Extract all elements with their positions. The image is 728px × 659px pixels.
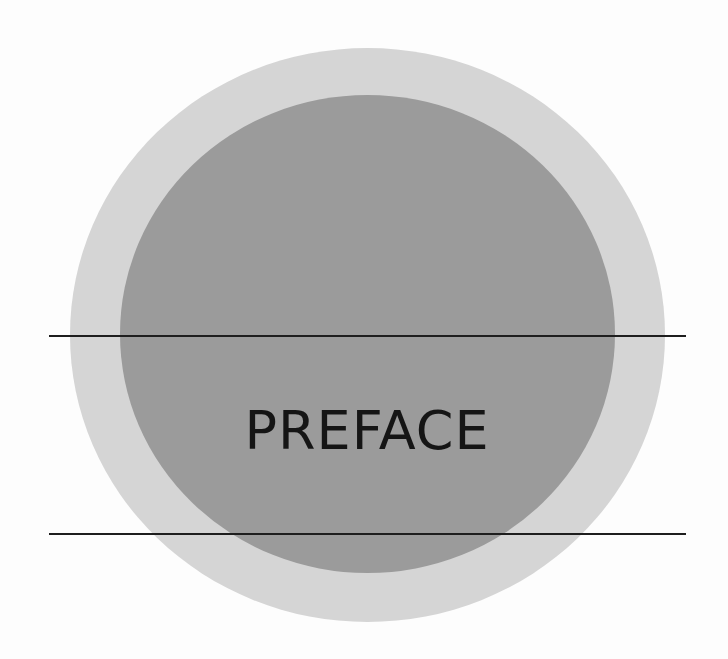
chapter-opener-page: PREFACE (0, 0, 728, 659)
top-rule-divider (49, 335, 686, 337)
page-title: PREFACE (0, 399, 728, 463)
inner-circle-decoration (120, 95, 615, 573)
bottom-rule-divider (49, 533, 686, 535)
